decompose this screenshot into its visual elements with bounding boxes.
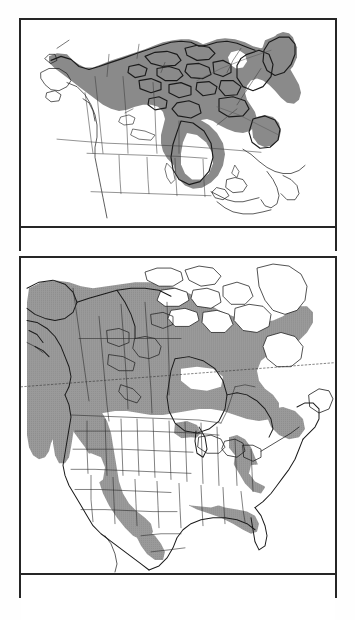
north-america-map-black-bear (21, 258, 335, 573)
page-root: Ours blanc, Ursus maritimus, 48, Pl. 4 (0, 0, 355, 620)
figure-black-bear: Ours noir, Ursus americanus, 46, Pl. 4 (19, 256, 337, 598)
map-polar-bear (21, 20, 335, 228)
figure-polar-bear: Ours blanc, Ursus maritimus, 48, Pl. 4 (19, 18, 337, 251)
caption-band-black-bear: Ours noir, Ursus americanus, 46, Pl. 4 (21, 575, 335, 620)
map-black-bear (21, 258, 335, 575)
north-america-map-polar-bear (21, 20, 335, 226)
